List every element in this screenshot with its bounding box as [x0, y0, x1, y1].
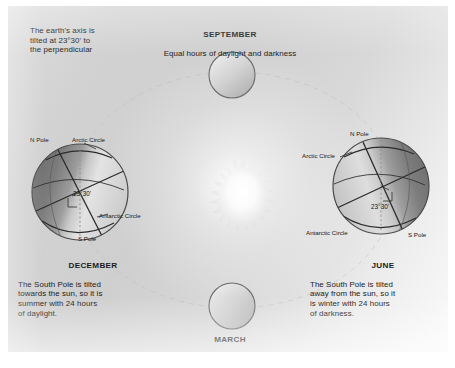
earth-june	[333, 138, 429, 234]
december-n-pole-label: N Pole	[30, 136, 49, 143]
illustration-plate: The earth's axis is tilted at 23°30' to …	[8, 6, 448, 352]
december-tilt-angle-label: 23°30'	[73, 190, 91, 197]
block-june: JUNE The South Pole is tilted away from …	[310, 251, 448, 318]
december-arctic-circle-label: Arctic Circle	[72, 136, 105, 143]
june-tilt-angle-label: 23°30'	[371, 203, 389, 210]
label-september: SEPTEMBER Equal hours of daylight and da…	[152, 20, 308, 58]
block-december: DECEMBER The South Pole is tilted toward…	[18, 251, 168, 318]
june-heading: JUNE	[310, 261, 448, 271]
tilt-note: The earth's axis is tilted at 23°30' to …	[30, 26, 160, 55]
earth-march	[209, 283, 255, 329]
june-antarctic-circle-label: Antarctic Circle	[306, 229, 348, 236]
september-description: Equal hours of daylight and darkness	[164, 49, 297, 58]
seasons-diagram-figure: The earth's axis is tilted at 23°30' to …	[0, 0, 455, 368]
september-heading: SEPTEMBER	[152, 30, 308, 40]
earth-september	[209, 52, 255, 98]
sun	[194, 150, 274, 232]
june-description: The South Pole is tilted away from the s…	[310, 280, 395, 318]
june-arctic-circle-label: Arctic Circle	[302, 152, 335, 159]
december-heading: DECEMBER	[18, 261, 168, 271]
december-s-pole-label: S Pole	[78, 235, 96, 242]
june-n-pole-label: N Pole	[350, 130, 369, 137]
june-s-pole-label: S Pole	[408, 231, 426, 238]
december-description: The South Pole is tilted towards the sun…	[18, 280, 102, 318]
march-heading: MARCH	[152, 335, 308, 345]
december-antarctic-circle-label: Antarctic Circle	[99, 212, 141, 219]
label-march: MARCH Equal hours of daylight and darkne…	[152, 325, 308, 352]
